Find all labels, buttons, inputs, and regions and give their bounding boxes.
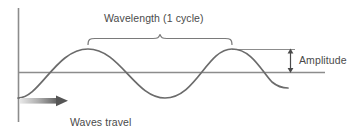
wave-direction-arrow xyxy=(20,95,68,106)
wave-diagram: Wavelength (1 cycle) Amplitude Waves tra… xyxy=(0,0,357,129)
wavelength-label: Wavelength (1 cycle) xyxy=(104,12,204,24)
amplitude-label: Amplitude xyxy=(299,54,347,66)
waves-travel-label: Waves travel past a point xyxy=(70,92,132,129)
waves-travel-label-line1: Waves travel xyxy=(70,116,132,128)
amplitude-arrow xyxy=(288,49,294,74)
wave-curve xyxy=(18,49,288,98)
wavelength-brace xyxy=(88,35,232,46)
